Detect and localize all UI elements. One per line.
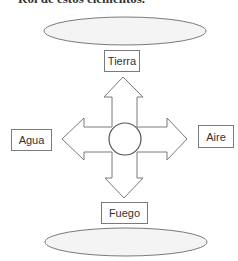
center-circle [109,123,141,155]
aire-text: Aire [206,131,226,143]
element-label-aire: Aire [198,125,234,148]
bottom-ellipse [45,228,207,256]
fuego-text: Fuego [109,207,140,219]
element-label-fuego: Fuego [101,202,148,224]
element-label-tierra: Tierra [104,50,140,72]
agua-text: Agua [19,134,45,146]
top-ellipse [44,17,206,45]
element-label-agua: Agua [11,129,52,151]
tierra-text: Tierra [108,55,136,67]
